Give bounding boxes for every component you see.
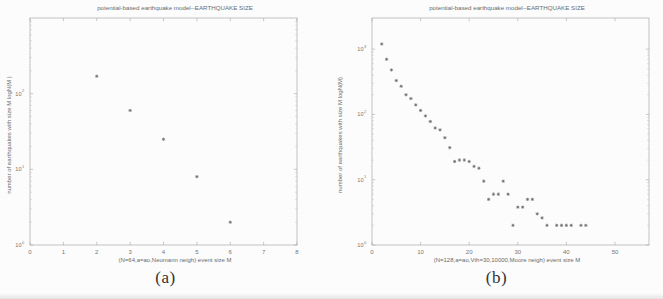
x-tick-label: 30	[514, 249, 521, 255]
data-point-marker	[531, 198, 534, 201]
data-point-marker	[487, 198, 490, 201]
y-tick-exponent: 2	[364, 109, 366, 114]
data-point-marker	[502, 180, 505, 183]
plot-b-frame	[372, 18, 649, 245]
y-tick-exponent: 3	[364, 44, 366, 49]
x-tick-label: 6	[229, 249, 233, 255]
x-tick-label: 7	[262, 249, 266, 255]
x-tick-label: 1	[62, 249, 66, 255]
x-tick-label: 5	[195, 249, 199, 255]
data-point-marker	[419, 109, 422, 112]
y-tick-label: 10	[357, 177, 363, 183]
plot-a-yticks: 100101102	[15, 21, 297, 248]
data-point-marker	[385, 58, 388, 61]
data-point-marker	[555, 224, 558, 227]
x-tick-label: 4	[162, 249, 166, 255]
y-tick-exponent: 0	[364, 240, 367, 245]
y-tick-label: 10	[357, 242, 363, 248]
y-tick-exponent: 0	[22, 240, 25, 245]
data-point-marker	[497, 193, 500, 196]
plot-b-svg: potential-based earthquake model--EARTHQ…	[331, 0, 663, 268]
plot-a-xlabel: (N=64,a=ao,Neumann neigh) event size M	[118, 257, 231, 263]
data-point-marker	[404, 93, 407, 96]
data-point-marker	[540, 216, 543, 219]
data-point-marker	[229, 221, 232, 224]
plot-b-datapoints	[380, 42, 587, 227]
data-point-marker	[129, 109, 132, 112]
data-point-marker	[453, 160, 456, 163]
data-point-marker	[511, 224, 514, 227]
data-point-marker	[195, 175, 198, 178]
data-point-marker	[434, 126, 437, 129]
y-tick-exponent: 2	[22, 88, 24, 93]
data-point-marker	[443, 136, 446, 139]
panel-a: potential-based earthquake model--EARTHQ…	[0, 0, 331, 299]
plot-b-ylabel: number of earthquakes with size M logN(M…	[337, 77, 343, 193]
data-point-marker	[458, 158, 461, 161]
plot-a-frame	[30, 18, 297, 245]
data-point-marker	[438, 128, 441, 131]
y-tick-exponent: 1	[364, 174, 366, 179]
data-point-marker	[463, 158, 466, 161]
data-point-marker	[448, 146, 451, 149]
panel-b: potential-based earthquake model--EARTHQ…	[331, 0, 662, 299]
data-point-marker	[560, 224, 563, 227]
caption-a: (a)	[0, 268, 331, 288]
data-point-marker	[482, 180, 485, 183]
data-point-marker	[429, 120, 432, 123]
plot-a-datapoints	[95, 75, 232, 224]
x-tick-label: 8	[295, 249, 299, 255]
data-point-marker	[162, 138, 165, 141]
data-point-marker	[380, 42, 383, 45]
x-tick-label: 0	[370, 249, 374, 255]
data-point-marker	[390, 68, 393, 71]
data-point-marker	[579, 224, 582, 227]
x-tick-label: 10	[417, 249, 424, 255]
y-tick-exponent: 1	[22, 164, 24, 169]
plot-a-svg: potential-based earthquake model--EARTHQ…	[0, 0, 331, 268]
plot-b-yticks: 100101102103	[357, 44, 649, 248]
data-point-marker	[409, 97, 412, 100]
y-tick-label: 10	[15, 166, 21, 172]
plot-b-title: potential-based earthquake model--EARTHQ…	[429, 4, 585, 11]
plot-b-xticks: 01020304050	[370, 18, 619, 255]
data-point-marker	[506, 193, 509, 196]
data-point-marker	[565, 224, 568, 227]
y-tick-label: 10	[15, 242, 21, 248]
data-point-marker	[492, 193, 495, 196]
y-tick-label: 10	[357, 46, 363, 52]
data-point-marker	[414, 103, 417, 106]
data-point-marker	[545, 224, 548, 227]
data-point-marker	[472, 165, 475, 168]
plot-b-xlabel: (N=128,a=ao,Vth=30,10000,Moore neigh) ev…	[434, 257, 581, 263]
x-tick-label: 0	[28, 249, 32, 255]
y-tick-label: 10	[357, 111, 363, 117]
data-point-marker	[468, 160, 471, 163]
data-point-marker	[536, 212, 539, 215]
data-point-marker	[95, 75, 98, 78]
data-point-marker	[526, 198, 529, 201]
x-tick-label: 20	[466, 249, 473, 255]
figure-container: potential-based earthquake model--EARTHQ…	[0, 0, 663, 299]
data-point-marker	[395, 79, 398, 82]
data-point-marker	[477, 167, 480, 170]
caption-b: (b)	[331, 268, 662, 288]
data-point-marker	[584, 224, 587, 227]
data-point-marker	[521, 206, 524, 209]
plot-a-ylabel: number of earthquakes with size M logN(M…	[6, 76, 12, 194]
data-point-marker	[400, 85, 403, 88]
plot-a-title: potential-based earthquake model--EARTHQ…	[97, 4, 253, 11]
y-tick-label: 10	[15, 91, 21, 97]
plot-a-xticks: 012345678	[28, 18, 299, 255]
data-point-marker	[424, 114, 427, 117]
x-tick-label: 2	[95, 249, 99, 255]
data-point-marker	[516, 206, 519, 209]
x-tick-label: 50	[612, 249, 619, 255]
x-tick-label: 3	[128, 249, 132, 255]
data-point-marker	[570, 224, 573, 227]
x-tick-label: 40	[563, 249, 570, 255]
